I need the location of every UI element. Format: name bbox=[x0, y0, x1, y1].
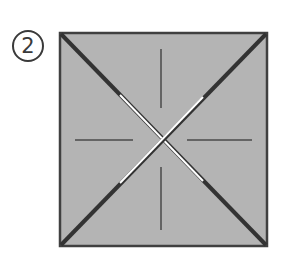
origami-diagram bbox=[0, 0, 291, 260]
